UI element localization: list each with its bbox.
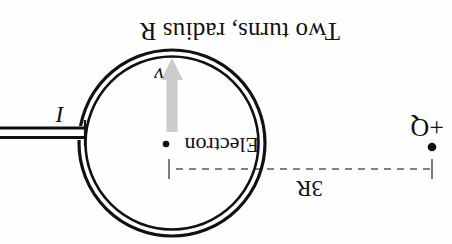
- velocity-arrow-group: [161, 58, 183, 132]
- electron-label: Electron: [184, 134, 259, 156]
- rotated-figure-canvas: Two turns, radius R 3R Electron +Q I v: [0, 0, 452, 244]
- velocity-arrow-head: [161, 58, 183, 80]
- physics-figure: Two turns, radius R 3R Electron +Q I v: [0, 0, 452, 244]
- electron-dot: [163, 141, 170, 148]
- point-charge-label: +Q: [411, 114, 444, 140]
- point-charge-dot: [428, 143, 437, 152]
- loop-caption-label: Two turns, radius R: [139, 19, 340, 44]
- velocity-arrow-shaft: [167, 77, 178, 132]
- current-label: I: [56, 103, 64, 126]
- velocity-label: v: [154, 64, 164, 86]
- distance-label-3r: 3R: [296, 177, 323, 200]
